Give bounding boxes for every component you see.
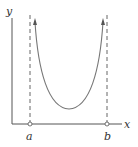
tick-label-a: a bbox=[26, 130, 33, 143]
open-point-b bbox=[105, 122, 109, 126]
x-axis-label: x bbox=[124, 118, 131, 131]
y-axis-label: y bbox=[5, 5, 13, 18]
arrow-right-icon bbox=[101, 18, 105, 25]
graph: y x a b bbox=[0, 0, 138, 147]
arrow-left-icon bbox=[33, 18, 37, 25]
tick-label-b: b bbox=[104, 130, 111, 143]
open-point-a bbox=[28, 122, 32, 126]
u-curve bbox=[35, 22, 103, 109]
